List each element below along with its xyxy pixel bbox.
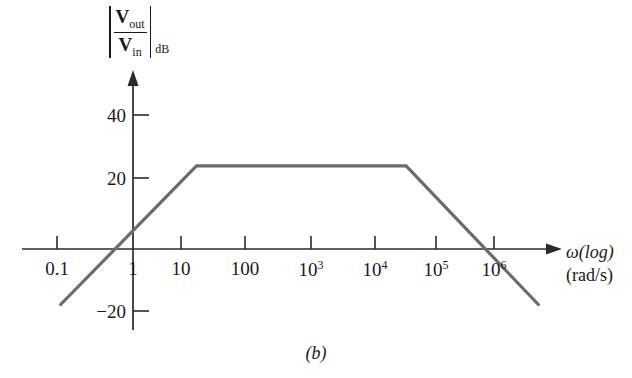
figure-caption: (b) [0, 344, 632, 362]
y-axis-title: Vout Vin dB [106, 6, 169, 58]
x-tick-label-1e6: 106 [468, 259, 520, 279]
x-axis-title-line1: ω(log) [566, 241, 614, 264]
vertical-bar-left [109, 6, 111, 58]
x-tick-label-100: 100 [216, 259, 274, 278]
x-tick-label-10: 10 [158, 259, 204, 278]
y-tick-label-minus-20: −20 [72, 302, 126, 321]
x-axis-arrowhead [546, 244, 562, 255]
decibel-unit-label: dB [155, 43, 169, 58]
y-axis-arrowhead [128, 70, 139, 86]
magnitude-curve [60, 166, 540, 306]
denominator: Vin [117, 33, 144, 58]
x-axis-title-line2: (rad/s) [566, 264, 614, 287]
plot-canvas [0, 0, 632, 378]
y-tick-label-20: 20 [88, 169, 126, 188]
bode-plot-figure: Vout Vin dB 40 20 −20 0.1 1 10 100 103 1… [0, 0, 632, 378]
y-tick-label-40: 40 [88, 106, 126, 125]
x-tick-label-0.1: 0.1 [31, 259, 83, 278]
vertical-bar-right [150, 6, 152, 58]
x-tick-label-1e5: 105 [410, 259, 462, 279]
x-tick-label-1e4: 104 [349, 259, 401, 279]
y-axis-ticks [133, 115, 149, 311]
gain-fraction: Vout Vin [114, 7, 147, 58]
x-axis-title: ω(log) (rad/s) [566, 241, 614, 286]
x-tick-label-1: 1 [116, 259, 150, 278]
numerator: Vout [114, 7, 147, 33]
x-tick-label-1e3: 103 [285, 259, 337, 279]
